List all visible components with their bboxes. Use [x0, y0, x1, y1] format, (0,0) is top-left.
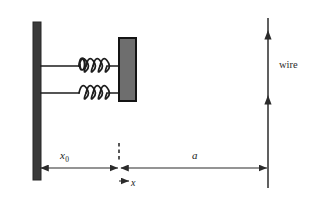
- spring-bottom: [41, 86, 119, 99]
- label-x0-subscript: 0: [65, 155, 69, 164]
- wire: [264, 18, 271, 188]
- wire-current-arrow-upper: [264, 30, 271, 40]
- mass-block-body: [119, 38, 136, 101]
- spring-top: [41, 58, 119, 72]
- spring-bottom-coils: [79, 86, 109, 99]
- wire-current-arrow-lower: [264, 95, 271, 105]
- wall-body: [33, 22, 41, 180]
- label-a: a: [192, 150, 198, 161]
- mass-block: [119, 38, 136, 101]
- label-x-axis: x: [131, 178, 135, 188]
- diagram-canvas: [0, 0, 318, 206]
- label-wire: wire: [279, 60, 298, 71]
- wall: [33, 22, 41, 180]
- label-x0: x0: [60, 150, 69, 161]
- physics-diagram: x0 a x wire: [0, 0, 318, 206]
